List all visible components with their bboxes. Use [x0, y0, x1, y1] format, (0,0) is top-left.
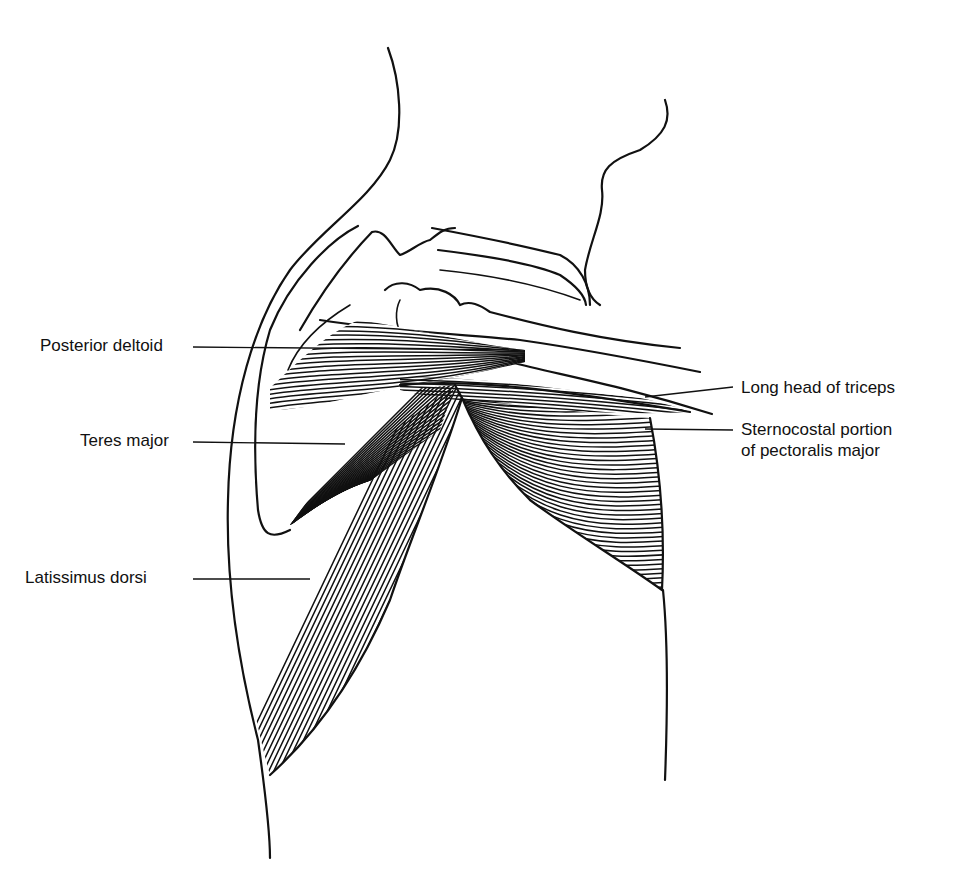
label-long-head-triceps: Long head of triceps [741, 378, 895, 398]
neck-outline [585, 100, 668, 305]
label-posterior-deltoid: Posterior deltoid [40, 336, 163, 356]
leader-long-head-triceps [645, 387, 733, 397]
label-teres-major: Teres major [80, 431, 169, 451]
label-sternocostal-line1: Sternocostal portion [741, 420, 892, 440]
leader-teres-major [193, 442, 345, 444]
clavicle-upper [432, 228, 590, 305]
label-sternocostal-line2: of pectoralis major [741, 441, 880, 461]
anatomy-figure: Posterior deltoid Teres major Latissimus… [0, 0, 954, 884]
label-latissimus-dorsi: Latissimus dorsi [25, 568, 147, 588]
leader-sternocostal [645, 429, 733, 430]
acromion [300, 228, 455, 330]
pectoralis-major-muscle [455, 398, 670, 588]
chest-outline [663, 590, 667, 780]
